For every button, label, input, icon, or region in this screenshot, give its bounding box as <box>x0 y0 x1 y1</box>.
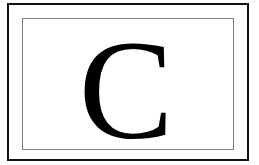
outer-frame: C <box>7 3 249 161</box>
letter-glyph: C <box>79 19 174 161</box>
inner-frame: C <box>22 18 234 150</box>
letter-card: C <box>23 19 233 149</box>
